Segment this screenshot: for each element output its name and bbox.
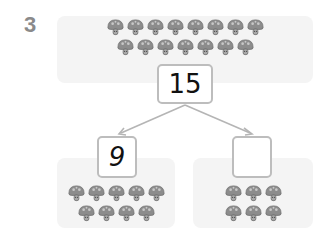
part-left-number-box: 9: [97, 136, 137, 178]
whole-number-box: 15: [157, 64, 213, 104]
branch-arrows: [0, 0, 322, 235]
part-right-answer-box[interactable]: [232, 136, 272, 178]
